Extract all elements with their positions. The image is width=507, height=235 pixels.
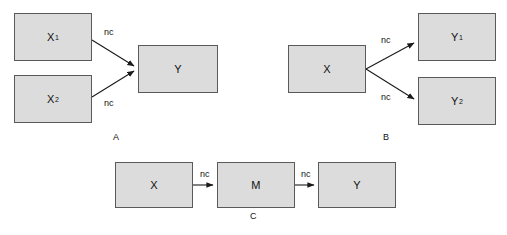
node-label: Y [174, 63, 182, 75]
node-b-x: X [288, 45, 366, 93]
node-label-subscript: 1 [459, 34, 463, 41]
node-label: M [251, 179, 260, 191]
causal-diagram-figure: X1X2YXY1Y2XMY ncncncncncnc ABC [0, 0, 507, 235]
edge-label-c-2: nc [301, 169, 311, 179]
edge-label-a-2: nc [104, 98, 114, 108]
node-label: X [47, 93, 55, 105]
node-label: Y [451, 95, 459, 107]
node-label: X [323, 63, 331, 75]
node-label-subscript: 1 [55, 34, 59, 41]
node-a-x1: X1 [14, 13, 92, 61]
node-label: X [150, 179, 158, 191]
node-label: Y [451, 31, 459, 43]
a-x2-to-y [92, 71, 134, 97]
edge-label-b-2: nc [381, 92, 391, 102]
node-b-y2: Y2 [418, 77, 496, 125]
panel-label-a: A [113, 132, 119, 142]
panel-label-c: C [250, 211, 257, 221]
node-a-y: Y [138, 45, 218, 93]
edge-label-b-1: nc [381, 35, 391, 45]
node-label-subscript: 2 [459, 98, 463, 105]
panel-label-b: B [383, 132, 389, 142]
node-c-x: X [115, 162, 193, 208]
node-c-m: M [217, 162, 295, 208]
node-label: Y [353, 179, 361, 191]
node-label-subscript: 2 [55, 96, 59, 103]
edge-label-a-1: nc [104, 27, 114, 37]
node-b-y1: Y1 [418, 13, 496, 61]
node-label: X [47, 31, 55, 43]
edge-label-c-1: nc [200, 169, 210, 179]
a-x1-to-y [92, 40, 134, 66]
node-c-y: Y [318, 162, 396, 208]
b-x-to-y1 [366, 43, 414, 69]
node-a-x2: X2 [14, 75, 92, 123]
